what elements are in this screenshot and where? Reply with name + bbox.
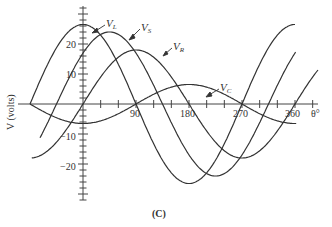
series-label-vl: VL: [106, 17, 117, 31]
series-label-vc: VC: [220, 81, 232, 95]
svg-text:VC: VC: [220, 81, 232, 95]
y-axis-label: V (volts): [5, 94, 17, 130]
y-tick-20: 20: [66, 39, 76, 50]
figure-caption: (C): [152, 208, 166, 220]
x-tick-360: 360: [285, 108, 300, 119]
x-axis-label: θ°: [311, 108, 320, 119]
series-label-vr: VR: [173, 40, 185, 54]
chart: 90 180 270 360 θ° 20 10 −10 −20 V (volts…: [0, 0, 332, 227]
series-label-vs: VS: [141, 21, 152, 35]
x-tick-180: 180: [180, 108, 195, 119]
svg-text:VR: VR: [173, 40, 185, 54]
x-tick-270: 270: [233, 108, 248, 119]
y-tick-neg20: −20: [60, 161, 76, 172]
svg-text:VL: VL: [106, 17, 117, 31]
label-arrows: [92, 25, 219, 97]
y-tick-neg10: −10: [60, 131, 76, 142]
y-tick-10: 10: [66, 69, 76, 80]
x-tick-90: 90: [130, 108, 140, 119]
svg-text:VS: VS: [141, 21, 152, 35]
